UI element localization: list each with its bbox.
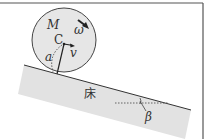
radius-label: a <box>45 50 52 64</box>
floor-label: 床 <box>84 87 96 101</box>
rolling-disk-diagram: M C ω v a 床 β <box>0 0 209 139</box>
disk <box>32 8 96 72</box>
mass-label: M <box>46 18 60 32</box>
center-label: C <box>54 33 63 47</box>
angular-velocity-label: ω <box>74 23 84 37</box>
floor-slab <box>18 65 191 139</box>
velocity-label: v <box>70 46 77 60</box>
incline-angle-label: β <box>144 110 152 124</box>
